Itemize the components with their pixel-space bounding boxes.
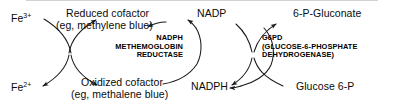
label-reduced-cofactor-line1: Reduced cofactor [66, 8, 149, 20]
ferric-symbol: Fe [11, 12, 23, 24]
label-nadp: NADP [197, 8, 226, 20]
arrow-waist-to-fe2 [43, 55, 69, 86]
label-nadph: NADPH [191, 81, 228, 93]
pathway-diagram: Fe3+ Fe2+ Reduced cofactor (eg, methylen… [0, 0, 401, 109]
label-enzyme-g6pd: G6PD (GLUCOSE-6-PHOSPHATE DEHYDROGENASE) [262, 34, 394, 60]
arrow-to-nadph [230, 86, 241, 88]
arrow-to-nadp [188, 20, 196, 28]
arc-glucose6p-to-waist [254, 58, 283, 86]
arrow-waist-to-nadph [232, 58, 252, 85]
label-ferric-ion: Fe3+ [11, 12, 31, 24]
enzyme-right-line3: DEHYDROGENASE) [262, 51, 394, 60]
label-oxidized-cofactor-line1: Oxidized cofactor [81, 77, 163, 89]
ferric-charge: 3+ [23, 12, 31, 19]
label-ferrous-ion: Fe2+ [11, 81, 31, 93]
label-reduced-cofactor-line2: (eg, methylene blue) [56, 20, 153, 32]
label-enzyme-methemoglobin-reductase: NADPH METHEMOGLOBIN REDUCTASE [90, 34, 183, 60]
label-6-p-gluconate: 6-P-Gluconate [293, 8, 361, 20]
label-glucose-6-p: Glucose 6-P [296, 81, 354, 93]
ferrous-symbol: Fe [11, 81, 23, 93]
enzyme-left-line3: REDUCTASE [90, 51, 183, 60]
ferrous-charge: 2+ [23, 81, 31, 88]
arc-right-x-upleft [236, 24, 252, 52]
label-oxidized-cofactor-line2: (eg, methalene blue) [71, 89, 168, 101]
